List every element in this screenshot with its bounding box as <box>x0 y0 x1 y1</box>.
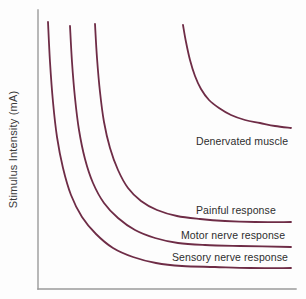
curve-label-denervated-muscle: Denervated muscle <box>196 136 288 147</box>
strength-duration-chart: Stimulus Intensity (mA) Denervated muscl… <box>0 0 306 299</box>
curve-label-motor-nerve-response: Motor nerve response <box>181 230 285 241</box>
curve-label-sensory-nerve-response: Sensory nerve response <box>172 252 288 263</box>
curve-label-painful-response: Painful response <box>196 205 276 216</box>
curve-denervated-muscle <box>183 25 291 128</box>
